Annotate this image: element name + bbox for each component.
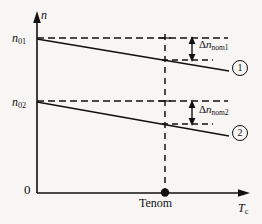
circled-number-2: 2 (232, 125, 248, 141)
origin-label: 0 (24, 183, 31, 196)
curve-label-1: 1 (232, 60, 248, 76)
x-axis-label: Tc (238, 202, 248, 214)
delta-n-nom1-arrow (189, 36, 196, 62)
y-axis-label: n (41, 9, 47, 21)
circled-number-1: 1 (232, 60, 248, 76)
delta2-var: n (206, 103, 212, 115)
delta1-sub: nom1 (212, 43, 229, 52)
annotation-delta-n-nom2: Δnnom2 (199, 104, 229, 115)
x-axis-label-base: T (238, 201, 245, 215)
curve-label-2: 2 (232, 125, 248, 141)
annotation-delta-n-nom1: Δnnom1 (199, 39, 229, 50)
delta1-var: n (206, 38, 212, 50)
delta2-sub: nom2 (212, 108, 229, 117)
n02-sub: 02 (18, 101, 26, 110)
n01-sub: 01 (18, 37, 26, 46)
y-tick-label-n01: n01 (12, 32, 26, 44)
x-tick-label-tenom: Tenom (139, 197, 172, 209)
delta-n-nom2-arrow (189, 100, 196, 126)
x-axis-label-sub: c (245, 207, 249, 216)
figure-container: n n01 n02 0 Tenom Tc Δnnom1 Δnnom2 1 2 (0, 0, 262, 224)
y-tick-label-n02: n02 (12, 96, 26, 108)
